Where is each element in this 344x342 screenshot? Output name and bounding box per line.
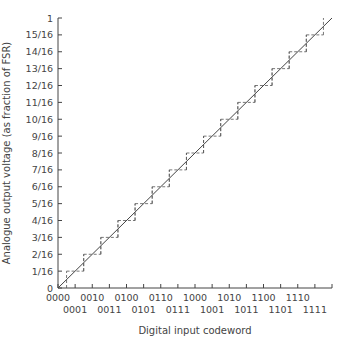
y-tick-label: 12/16	[26, 80, 53, 91]
x-tick-label: 0111	[166, 304, 190, 315]
x-axis-ticks: 0000000100100011010001010110011110001001…	[46, 284, 332, 315]
y-tick-label: 14/16	[26, 46, 53, 57]
dac-transfer-chart: 01/162/163/164/165/166/167/168/169/1610/…	[0, 0, 344, 342]
x-tick-label: 1000	[183, 292, 207, 303]
y-axis-title: Analogue output voltage (as fraction of …	[1, 42, 12, 265]
y-tick-label: 3/16	[32, 232, 53, 243]
x-tick-label: 0110	[149, 292, 173, 303]
x-tick-label: 0100	[114, 292, 138, 303]
y-tick-label: 4/16	[32, 215, 53, 226]
y-tick-label: 5/16	[32, 198, 53, 209]
y-tick-label: 11/16	[26, 97, 53, 108]
x-tick-label: 1111	[303, 304, 327, 315]
x-tick-label: 0010	[80, 292, 104, 303]
ideal-line	[58, 18, 332, 288]
y-axis-ticks: 01/162/163/164/165/166/167/168/169/1610/…	[26, 13, 62, 294]
y-tick-label: 6/16	[32, 181, 53, 192]
y-tick-label: 1	[47, 13, 53, 24]
x-tick-label: 1011	[234, 304, 258, 315]
x-tick-label: 0001	[63, 304, 87, 315]
x-tick-label: 0101	[132, 304, 156, 315]
x-tick-label: 1010	[217, 292, 241, 303]
x-tick-label: 1001	[200, 304, 224, 315]
x-tick-label: 0000	[46, 292, 70, 303]
y-tick-label: 10/16	[26, 114, 53, 125]
y-tick-label: 15/16	[26, 29, 53, 40]
y-tick-label: 9/16	[32, 131, 53, 142]
x-axis-title: Digital input codeword	[138, 325, 251, 336]
y-tick-label: 1/16	[32, 266, 53, 277]
y-tick-label: 7/16	[32, 164, 53, 175]
x-tick-label: 1101	[269, 304, 293, 315]
y-tick-label: 13/16	[26, 63, 53, 74]
x-tick-label: 1100	[251, 292, 275, 303]
y-tick-label: 8/16	[32, 148, 53, 159]
y-tick-label: 2/16	[32, 249, 53, 260]
x-tick-label: 0011	[97, 304, 121, 315]
x-tick-label: 1110	[286, 292, 310, 303]
